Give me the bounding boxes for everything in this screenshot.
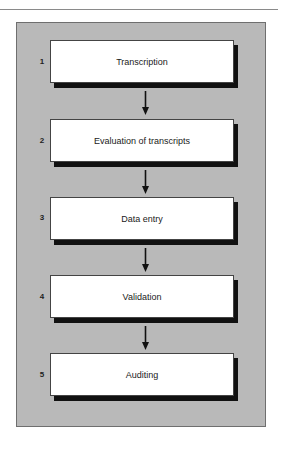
step-evaluation-of-transcripts: Evaluation of transcripts xyxy=(50,119,234,162)
step-label: Auditing xyxy=(126,370,159,380)
step-label: Transcription xyxy=(116,57,168,67)
step-box: Evaluation of transcripts xyxy=(50,119,234,162)
step-label: Validation xyxy=(123,292,162,302)
step-data-entry: Data entry xyxy=(50,197,234,240)
step-box: Data entry xyxy=(50,197,234,240)
step-box: Transcription xyxy=(50,40,234,83)
step-auditing: Auditing xyxy=(50,353,234,396)
step-number-3: 3 xyxy=(38,213,46,222)
step-validation: Validation xyxy=(50,275,234,318)
step-box: Validation xyxy=(50,275,234,318)
step-label: Data entry xyxy=(121,214,163,224)
down-arrow-icon xyxy=(141,248,150,272)
step-label: Evaluation of transcripts xyxy=(94,136,190,146)
step-number-5: 5 xyxy=(38,370,46,379)
step-number-1: 1 xyxy=(38,57,46,66)
step-number-2: 2 xyxy=(38,136,46,145)
top-rule-divider xyxy=(0,9,278,10)
step-number-4: 4 xyxy=(38,292,46,301)
step-box: Auditing xyxy=(50,353,234,396)
step-transcription: Transcription xyxy=(50,40,234,83)
down-arrow-icon xyxy=(141,170,150,194)
down-arrow-icon xyxy=(141,326,150,350)
down-arrow-icon xyxy=(141,91,150,115)
